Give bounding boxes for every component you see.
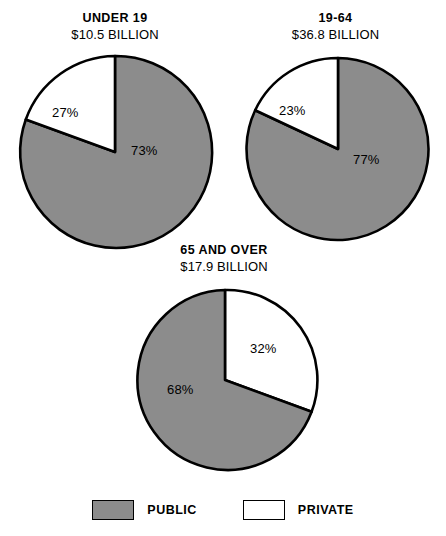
pie-title-65-and-over: 65 AND OVER bbox=[113, 243, 335, 258]
pie-title-under-19: UNDER 19 bbox=[0, 11, 230, 26]
pie-chart-figure: UNDER 19 $10.5 BILLION 27% 73% 19-64 $36… bbox=[0, 0, 446, 536]
legend-label-private: PRIVATE bbox=[298, 503, 354, 517]
pie-panel-65-and-over: 65 AND OVER $17.9 BILLION 32% 68% bbox=[113, 243, 335, 488]
pie-subtitle-65-and-over: $17.9 BILLION bbox=[113, 259, 335, 274]
pie-value-private-under-19: 27% bbox=[52, 105, 79, 120]
pie-svg-65-and-over bbox=[130, 285, 320, 475]
pie-svg-19-64 bbox=[242, 53, 434, 245]
pie-value-public-65-and-over: 68% bbox=[167, 382, 194, 397]
pie-subtitle-under-19: $10.5 BILLION bbox=[0, 27, 230, 42]
pie-subtitle-19-64: $36.8 BILLION bbox=[225, 27, 446, 42]
legend-item-public[interactable]: PUBLIC bbox=[92, 500, 197, 520]
chart-legend: PUBLIC PRIVATE bbox=[0, 496, 446, 524]
pie-value-private-65-and-over: 32% bbox=[250, 341, 277, 356]
pie-value-public-19-64: 77% bbox=[353, 152, 380, 167]
legend-item-private[interactable]: PRIVATE bbox=[243, 500, 354, 520]
pie-panel-under-19: UNDER 19 $10.5 BILLION 27% 73% bbox=[0, 0, 230, 255]
legend-swatch-public-icon bbox=[92, 500, 134, 520]
pie-value-private-19-64: 23% bbox=[279, 103, 306, 118]
legend-label-public: PUBLIC bbox=[147, 503, 197, 517]
pie-panel-19-64: 19-64 $36.8 BILLION 23% 77% bbox=[225, 0, 446, 255]
pie-title-19-64: 19-64 bbox=[225, 11, 446, 26]
legend-swatch-private-icon bbox=[243, 500, 285, 520]
pie-svg-under-19 bbox=[14, 51, 216, 253]
pie-value-public-under-19: 73% bbox=[131, 143, 158, 158]
